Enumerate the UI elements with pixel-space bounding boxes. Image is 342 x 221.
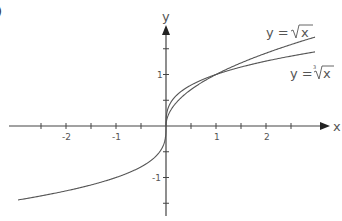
function-plot: x y -2-112 1-1 y = x y = 3 x — [0, 0, 342, 221]
axes: x y -2-112 1-1 — [9, 9, 341, 216]
x-tick-label: -2 — [62, 132, 71, 142]
svg-text:3: 3 — [313, 64, 316, 70]
x-tick-label: 2 — [264, 132, 270, 142]
x-axis-arrow-icon — [320, 122, 330, 130]
y-axis-label: y — [162, 9, 170, 24]
svg-text:y =: y = — [290, 66, 313, 81]
x-axis-label: x — [333, 119, 341, 134]
y-tick-label: 1 — [157, 70, 163, 80]
label-cbrt: y = 3 x — [290, 64, 334, 81]
x-tick-label: -1 — [112, 132, 121, 142]
svg-text:y =: y = — [266, 25, 289, 40]
label-sqrt: y = x — [266, 25, 313, 40]
y-tick-label: -1 — [152, 173, 161, 183]
svg-text:x: x — [323, 66, 331, 81]
curve-sqrt — [166, 37, 315, 126]
x-tick-label: 1 — [214, 132, 220, 142]
svg-text:x: x — [301, 25, 309, 40]
y-axis-arrow-icon — [162, 25, 170, 35]
